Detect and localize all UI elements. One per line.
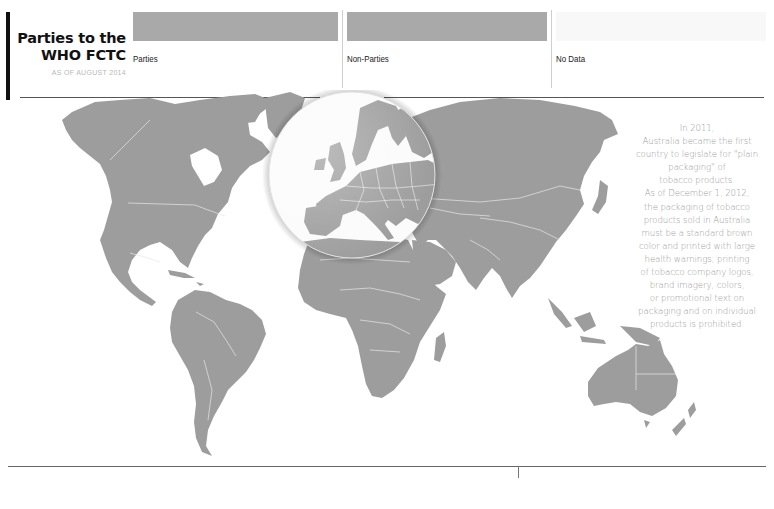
region-japan	[592, 180, 608, 214]
footer-tick	[518, 466, 519, 478]
legend-swatch-non-parties	[347, 12, 547, 41]
callout-line: the packaging of tobacco	[620, 201, 774, 214]
region-north-america	[62, 94, 275, 306]
callout-line: In 2011,	[620, 122, 774, 135]
title-block: Parties to the WHO FCTC AS OF AUGUST 201…	[14, 30, 126, 76]
legend-swatch-parties	[133, 12, 338, 41]
callout-line: color and printed with large	[620, 240, 774, 253]
border-us-mexico	[130, 253, 160, 262]
lens-glare	[269, 92, 435, 258]
legend-divider	[551, 10, 552, 88]
callout-line: of tobacco company logos,	[620, 266, 774, 279]
callout-line: or promotional text on	[620, 292, 774, 305]
region-south-america	[170, 290, 266, 456]
europe-magnifier-lens	[262, 90, 442, 265]
callout-line: country to legislate for "plain	[620, 148, 774, 161]
footer-rule	[8, 466, 766, 467]
legend-item-non-parties: Non-Parties	[347, 0, 547, 88]
legend-swatch-no-data	[556, 12, 766, 41]
callout-line: products sold in Australia	[620, 214, 774, 227]
title-line-2: WHO FCTC	[41, 47, 126, 63]
callout-line: brand imagery, colors,	[620, 279, 774, 292]
page-title: Parties to the WHO FCTC	[14, 30, 126, 64]
legend-label-parties: Parties	[133, 54, 158, 64]
callout-line: Australia became the first	[620, 135, 774, 148]
region-new-zealand	[672, 402, 696, 436]
region-australia	[588, 340, 678, 416]
title-accent-bar	[6, 12, 10, 100]
callout-line: As of December 1, 2012,	[620, 187, 774, 200]
page-subtitle: AS OF AUGUST 2014	[14, 69, 126, 76]
callout-line: products is prohibited.	[620, 318, 774, 331]
legend-item-no-data: No Data	[556, 0, 766, 88]
region-madagascar	[434, 332, 446, 362]
legend-item-parties: Parties	[133, 0, 338, 88]
legend-label-no-data: No Data	[556, 54, 585, 64]
callout-line: packaging and on individual	[620, 305, 774, 318]
legend-label-non-parties: Non-Parties	[347, 54, 389, 64]
australia-callout: In 2011,Australia became the firstcountr…	[620, 122, 774, 332]
region-tasmania	[644, 420, 650, 428]
callout-line: must be a standard brown	[620, 227, 774, 240]
title-line-1: Parties to the	[17, 30, 126, 46]
callout-line: tobacco products.	[620, 174, 774, 187]
legend-divider	[342, 10, 343, 88]
callout-line: packaging" of	[620, 161, 774, 174]
region-caribbean	[168, 270, 204, 286]
callout-line: health warnings; printing	[620, 253, 774, 266]
